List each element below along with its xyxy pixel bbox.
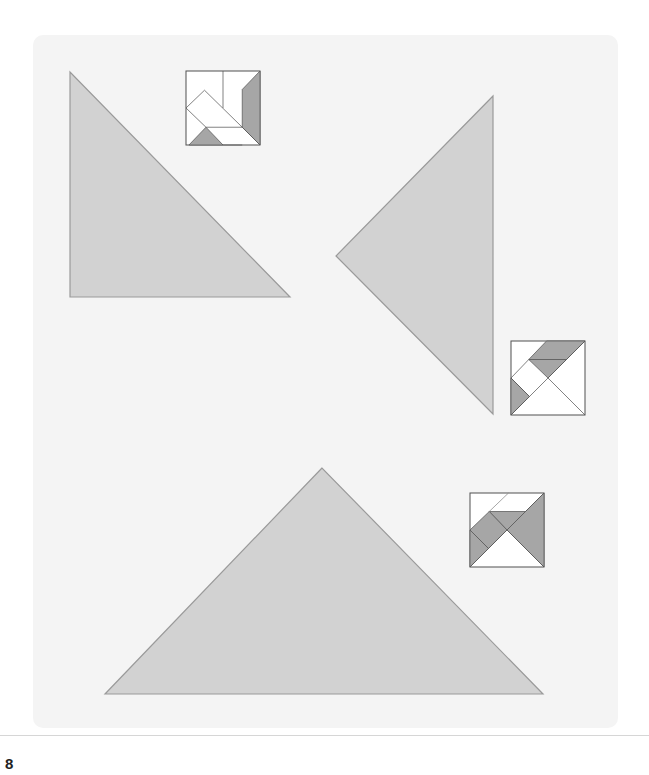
large-triangle-right <box>336 96 493 414</box>
tangram-thumbnail-2 <box>511 341 585 415</box>
tangram-thumbnail-3 <box>470 493 544 567</box>
page-divider <box>0 735 649 736</box>
tangram-thumbnail-1 <box>186 71 260 145</box>
page-number: 8 <box>5 756 13 771</box>
puzzle-canvas <box>0 0 649 775</box>
